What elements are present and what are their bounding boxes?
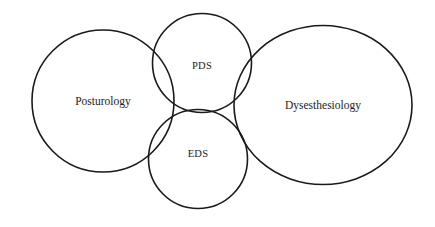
set-label-dysesthesiology: Dysesthesiology [285, 99, 361, 112]
venn-diagram-canvas: Posturology PDS EDS Dysesthesiology [0, 0, 435, 227]
set-label-eds: EDS [188, 148, 209, 159]
set-label-posturology: Posturology [75, 95, 131, 108]
venn-diagram-svg: Posturology PDS EDS Dysesthesiology [0, 0, 435, 227]
set-label-pds: PDS [192, 60, 212, 71]
